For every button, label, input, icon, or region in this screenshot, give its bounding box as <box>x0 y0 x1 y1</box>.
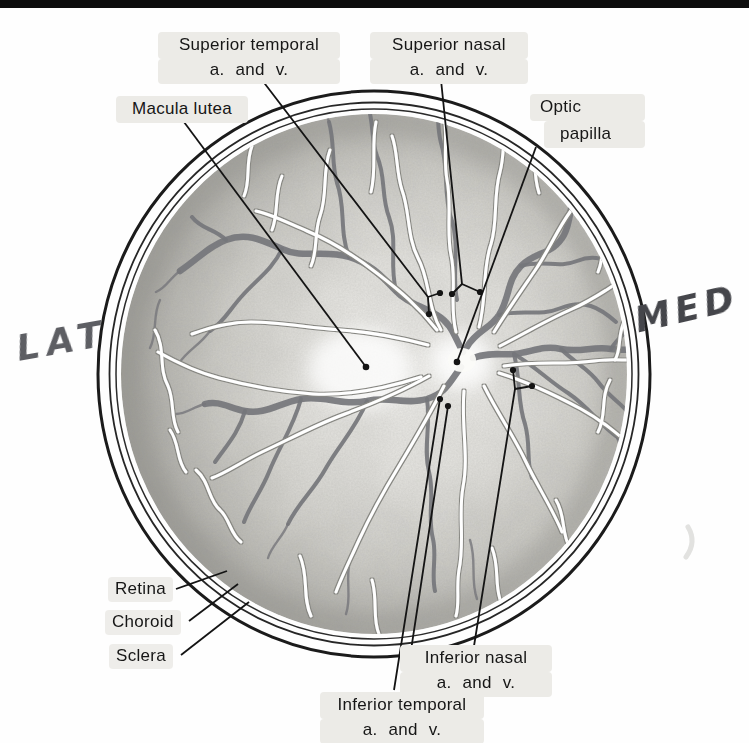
label-optic-papilla: Optic papilla <box>530 94 645 148</box>
label-inferior-temporal: Inferior temporal a. and v. <box>320 692 484 743</box>
label-retina: Retina <box>108 577 173 602</box>
label-superior-temporal: Superior temporal a. and v. <box>158 32 340 84</box>
label-macula-lutea: Macula lutea <box>116 96 248 123</box>
fovea-dot <box>363 364 370 371</box>
label-superior-nasal: Superior nasal a. and v. <box>370 32 528 84</box>
leader-sclera <box>181 602 249 655</box>
optic-papilla-disc <box>448 348 476 372</box>
figure-page: Superior temporal a. and v. Superior nas… <box>0 0 749 743</box>
label-choroid: Choroid <box>105 610 181 635</box>
label-sclera: Sclera <box>109 644 173 669</box>
paper-smudge <box>686 527 692 557</box>
label-inferior-nasal: Inferior nasal a. and v. <box>400 645 552 697</box>
